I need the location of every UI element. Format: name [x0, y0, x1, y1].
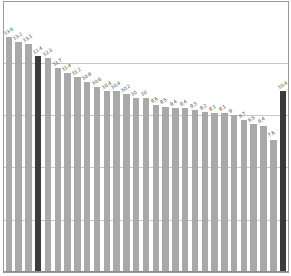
bar-slot: 10: [143, 98, 149, 272]
bar-slot: 11.7: [55, 68, 61, 272]
x-axis-baseline: [4, 271, 288, 272]
bar-slot: 8.4: [260, 126, 266, 272]
bar-value-label: 9: [228, 108, 233, 114]
bar-value-label: 8.4: [258, 117, 267, 125]
bar-slot: 9: [231, 115, 237, 272]
bar[interactable]: [202, 112, 208, 272]
bar-slot: 10: [133, 98, 139, 272]
bar-slot: 13.5: [6, 37, 12, 272]
bar-value-label: 9.6: [150, 96, 159, 104]
bar-slot: 12.4: [35, 56, 41, 272]
bar-chart: 13.513.213.112.412.311.711.411.210.910.6…: [0, 0, 291, 276]
bar-value-label: 13.1: [22, 33, 33, 43]
plot-area: 13.513.213.112.412.311.711.411.210.910.6…: [4, 2, 288, 272]
bar[interactable]: [250, 124, 256, 272]
bar-slot: 9.6: [153, 105, 159, 272]
bar[interactable]: [192, 110, 198, 272]
bar-value-label: 9.1: [209, 104, 218, 112]
bar[interactable]: [231, 115, 237, 272]
bar-slot: 12.3: [45, 58, 51, 272]
bar-slot: 9.4: [172, 108, 178, 272]
bar-slot: 7.6: [270, 140, 276, 272]
bar-slot: 11.4: [64, 73, 70, 272]
bar-slot: 9.3: [192, 110, 198, 272]
bar-slot: 9.4: [182, 108, 188, 272]
bar[interactable]: [6, 37, 12, 272]
bar[interactable]: [64, 73, 70, 272]
bar[interactable]: [162, 107, 168, 272]
bar[interactable]: [270, 140, 276, 272]
bar[interactable]: [133, 98, 139, 272]
bar-highlighted[interactable]: [280, 91, 286, 272]
bar-value-label: 10: [130, 89, 137, 96]
bar[interactable]: [45, 58, 51, 272]
bar[interactable]: [153, 105, 159, 272]
bar[interactable]: [113, 91, 119, 272]
bar[interactable]: [74, 77, 80, 272]
bar-value-label: 9.4: [179, 99, 188, 107]
bar-slot: 8.7: [241, 120, 247, 272]
bar-slot: 11.2: [74, 77, 80, 272]
bar-value-label: 9.5: [160, 97, 169, 105]
bar-value-label: 7.6: [267, 131, 276, 139]
bar[interactable]: [211, 113, 217, 272]
bar-value-label: 8.7: [238, 111, 247, 119]
bar[interactable]: [25, 44, 31, 272]
bar[interactable]: [15, 42, 21, 272]
bar[interactable]: [84, 82, 90, 272]
bar-value-label: 12.3: [42, 47, 53, 57]
bar-slot: 13.2: [15, 42, 21, 272]
bar-slot: 10.9: [84, 82, 90, 272]
bar[interactable]: [221, 113, 227, 272]
bar-highlighted[interactable]: [35, 56, 41, 272]
bar-value-label: 9.1: [218, 104, 227, 112]
bar-slot: 10.6: [94, 87, 100, 272]
bar-value-label: 9.4: [169, 99, 178, 107]
bar-slot: 10.2: [123, 94, 129, 272]
bar-value-label: 10.4: [277, 80, 288, 90]
bar-slot: 8.5: [250, 124, 256, 272]
bar-slot: 9.2: [202, 112, 208, 272]
bar-slot: 9.1: [211, 113, 217, 272]
bar-series: 13.513.213.112.412.311.711.411.210.910.6…: [4, 2, 288, 272]
bar-value-label: 9.2: [199, 103, 208, 111]
bar[interactable]: [104, 91, 110, 272]
bar-slot: 9.5: [162, 107, 168, 272]
bar[interactable]: [55, 68, 61, 272]
bar[interactable]: [172, 108, 178, 272]
bar-value-label: 10: [140, 89, 147, 96]
bar[interactable]: [143, 98, 149, 272]
bar-slot: 10.4: [104, 91, 110, 272]
bar[interactable]: [123, 94, 129, 272]
bar[interactable]: [182, 108, 188, 272]
bar[interactable]: [241, 120, 247, 272]
bar-value-label: 9.3: [189, 101, 198, 109]
bar-slot: 10.4: [113, 91, 119, 272]
bar-slot: 9.1: [221, 113, 227, 272]
bar[interactable]: [94, 87, 100, 272]
bar-value-label: 12.4: [32, 45, 43, 55]
bar-value-label: 8.5: [248, 115, 257, 123]
bar-slot: 10.4: [280, 91, 286, 272]
bar[interactable]: [260, 126, 266, 272]
bar-slot: 13.1: [25, 44, 31, 272]
